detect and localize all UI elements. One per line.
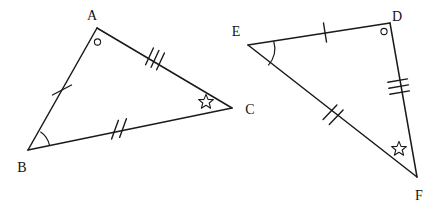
- tick-single-side-ab: [53, 85, 72, 95]
- tick-triple-side-df: [388, 79, 410, 94]
- vertex-label-d: D: [392, 9, 402, 24]
- vertex-label-e: E: [232, 24, 241, 39]
- angle-mark-f-star-icon: [392, 141, 407, 155]
- side-ac: [97, 28, 232, 108]
- vertex-label-f: F: [415, 188, 423, 203]
- side-ed: [248, 23, 390, 45]
- vertex-label-c: C: [245, 102, 254, 117]
- triangle-edf: E D F: [232, 9, 423, 203]
- vertex-label-b: B: [17, 160, 26, 175]
- angle-mark-d-circle-icon: [381, 28, 387, 34]
- tick-double-side-bc: [112, 119, 127, 139]
- triangles-svg: A B C: [0, 0, 447, 206]
- vertex-label-a: A: [87, 8, 98, 23]
- angle-mark-a-circle-icon: [94, 39, 100, 45]
- tick-double-side-ef: [323, 105, 343, 124]
- side-bc: [28, 108, 232, 150]
- angle-mark-b-arc-icon: [40, 132, 49, 146]
- side-ef: [248, 45, 417, 177]
- triangle-abc: A B C: [17, 8, 254, 175]
- geometry-diagram: A B C: [0, 0, 447, 206]
